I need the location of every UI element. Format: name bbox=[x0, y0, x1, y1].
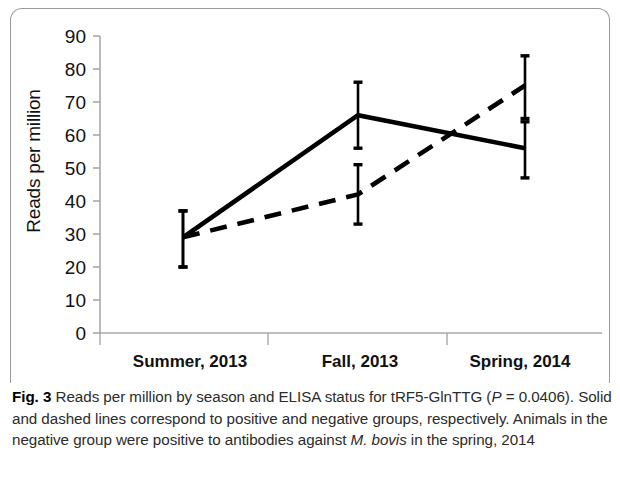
error-bar-negative-0 bbox=[179, 211, 188, 267]
caption-species-name: M. bovis bbox=[351, 431, 407, 448]
series-line-negative bbox=[183, 86, 525, 238]
figure-caption: Fig. 3 Reads per million by season and E… bbox=[12, 386, 612, 451]
caption-text-part1: Reads per million by season and ELISA st… bbox=[51, 388, 491, 405]
series-line-positive bbox=[183, 115, 525, 237]
chart-plot-area: Reads per million 90 80 70 60 50 40 30 2… bbox=[0, 0, 620, 382]
figure-label: Fig. 3 bbox=[12, 388, 51, 405]
caption-text-part3: in the spring, 2014 bbox=[407, 431, 535, 448]
series-layer bbox=[179, 56, 530, 267]
figure-container: Reads per million 90 80 70 60 50 40 30 2… bbox=[0, 0, 620, 488]
line-chart-svg bbox=[0, 0, 620, 382]
caption-p-symbol: P bbox=[491, 388, 501, 405]
